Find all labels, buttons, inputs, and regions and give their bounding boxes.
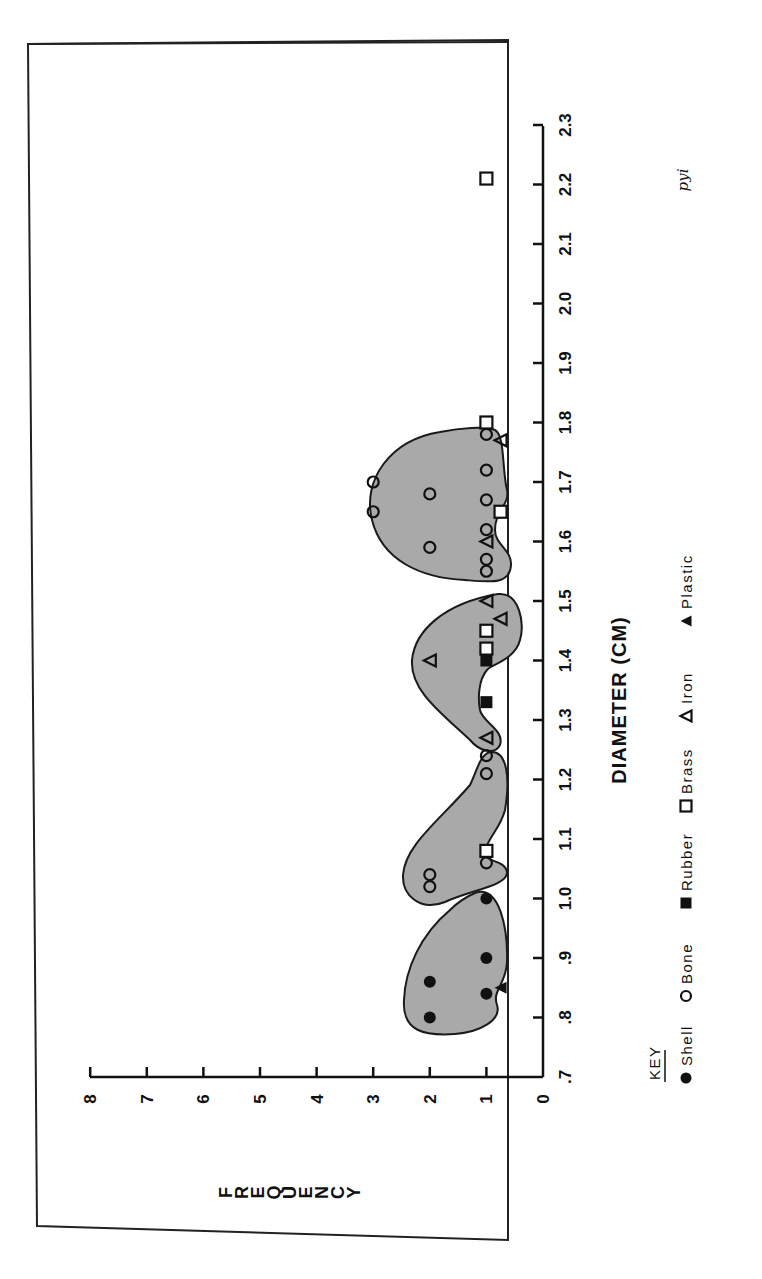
brass-data-point [480,625,492,637]
x-tick-label: 2.2 [556,173,575,197]
y-tick-label: 2 [421,1094,440,1103]
brass-data-point [480,845,492,857]
handwritten-note: pyi [674,168,692,191]
shell-data-point [480,893,492,905]
shell-data-point [424,1012,436,1024]
shell-data-point [480,988,492,1000]
x-tick-label: 1.9 [556,351,575,375]
filled-circle-marker-icon [681,1073,692,1084]
legend-label-brass: Brass [678,748,695,794]
outer-frame-border [28,42,508,44]
x-tick-label: .7 [556,1070,575,1084]
rubber-data-point [480,655,492,667]
filled-square-marker-icon [681,898,692,909]
chart-figure: .7.8.91.01.11.21.31.41.51.61.71.81.92.02… [0,0,762,1279]
brass-data-point [480,417,492,429]
filled-triangle-marker-icon [681,616,692,627]
open-triangle-marker-icon [681,711,692,722]
y-tick-label: 8 [81,1094,100,1103]
legend-label-iron: Iron [678,672,695,704]
x-tick-label: 2.0 [556,292,575,316]
x-tick-label: .8 [556,1010,575,1024]
y-tick-label: 5 [251,1094,270,1103]
brass-data-point [480,643,492,655]
rubber-data-point [480,696,492,708]
x-tick-label: 1.5 [556,589,575,613]
y-axis-title-letter: Y [344,1185,364,1198]
x-tick-label: 2.1 [556,232,575,256]
x-tick-label: 1.4 [556,648,575,672]
legend-label-bone: Bone [678,943,695,984]
x-axis-title: DIAMETER (CM) [608,616,630,783]
y-tick-label: 3 [364,1094,383,1103]
diameter-axis: .7.8.91.01.11.21.31.41.51.61.71.81.92.02… [533,113,575,1084]
brass-data-point [495,506,507,518]
frequency-axis: 012345678 [81,1067,553,1104]
legend-label-rubber: Rubber [678,833,695,891]
y-axis-title: FREQUENCY [216,1184,364,1199]
legend-label-plastic: Plastic [678,554,695,609]
x-tick-label: 1.2 [556,768,575,792]
legend: KEYShellBoneRubberBrassIronPlastic [646,554,695,1083]
legend-title: KEY [646,1045,663,1080]
x-tick-label: 1.8 [556,411,575,435]
cluster-shell [404,892,507,1035]
x-tick-label: 1.0 [556,887,575,911]
legend-label-shell: Shell [678,1025,695,1066]
y-tick-label: 4 [308,1094,327,1104]
x-tick-label: .9 [556,951,575,965]
y-tick-label: 0 [534,1094,553,1103]
x-tick-label: 1.7 [556,470,575,494]
shell-data-point [424,976,436,988]
y-tick-label: 7 [138,1094,157,1103]
open-square-marker-icon [681,801,692,812]
x-tick-label: 1.6 [556,530,575,554]
x-tick-label: 2.3 [556,113,575,137]
open-circle-marker-icon [681,991,691,1001]
y-tick-label: 1 [477,1094,496,1103]
y-tick-label: 6 [194,1094,213,1103]
cluster-rubber-iron [412,594,522,751]
shell-data-point [480,952,492,964]
x-tick-label: 1.3 [556,708,575,732]
x-tick-label: 1.1 [556,827,575,851]
brass-data-point [480,173,492,185]
